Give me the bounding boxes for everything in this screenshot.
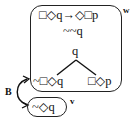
- relation-label: B: [5, 87, 12, 97]
- formula-double-negation: ~~q: [63, 25, 83, 38]
- formula-right-branch: □◇p: [88, 75, 111, 88]
- formula-v-main: ~◇q: [32, 101, 55, 114]
- world-v-label: v: [70, 97, 75, 106]
- formula-top: □◇q→◇□p: [39, 9, 98, 22]
- formula-root: q: [72, 45, 78, 58]
- accessibility-arc: [17, 79, 27, 105]
- formula-left-branch: ~□◇q: [33, 75, 63, 88]
- world-w-label: w: [123, 6, 130, 15]
